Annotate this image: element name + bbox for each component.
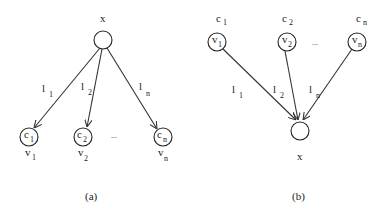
diagram-canvas: x l 1 l 2 l n c 1 v 1 c 2 v 2 ... c n v … [0, 0, 387, 213]
child-inner-sub-a-2: 2 [83, 135, 87, 144]
child-below-sub-a-1: 1 [32, 153, 36, 162]
child-below-sub-a-2: 2 [84, 154, 88, 163]
child-inner-sub-a-1: 1 [30, 135, 34, 144]
edge-label-a-2: l [81, 80, 84, 92]
panel-a: x l 1 l 2 l n c 1 v 1 c 2 v 2 ... c n v … [20, 12, 172, 203]
child-above-b-2: c [282, 12, 287, 24]
child-above-b-n: c [356, 12, 361, 24]
edge-label-b-1: l [232, 83, 235, 95]
child-above-sub-b-1: 1 [223, 18, 227, 27]
child-inner-a-n: c [157, 128, 162, 140]
edge-b-2 [285, 51, 298, 120]
edge-sub-a-1: 1 [49, 90, 53, 99]
edge-label-a-n: l [139, 80, 142, 92]
caption-a: (a) [85, 190, 98, 203]
child-inner-sub-b-n: n [358, 40, 362, 49]
root-node-b [291, 122, 309, 140]
edge-sub-a-n: n [146, 89, 150, 98]
child-inner-sub-a-n: n [163, 135, 167, 144]
child-inner-sub-b-2: 2 [288, 40, 292, 49]
child-below-a-1: v [25, 146, 31, 158]
edge-sub-b-2: 2 [280, 91, 284, 100]
edge-label-a-1: l [42, 82, 45, 94]
root-node-a [94, 31, 112, 49]
child-above-b-1: c [216, 12, 221, 24]
child-below-sub-a-n: n [164, 154, 168, 163]
child-inner-sub-b-1: 1 [218, 40, 222, 49]
child-above-sub-b-2: 2 [289, 18, 293, 27]
edge-sub-b-n: n [316, 91, 320, 100]
child-node-a-1 [20, 128, 38, 146]
edge-label-b-n: l [309, 83, 312, 95]
root-label-b: x [297, 150, 303, 162]
child-inner-a-2: c [77, 128, 82, 140]
edge-sub-a-2: 2 [88, 88, 92, 97]
ellipsis-a: ... [111, 131, 117, 140]
edge-label-b-2: l [273, 83, 276, 95]
ellipsis-b: ... [312, 38, 318, 47]
edge-sub-b-1: 1 [239, 91, 243, 100]
root-label-a: x [100, 12, 106, 24]
child-above-sub-b-n: n [363, 18, 367, 27]
child-inner-a-1: c [24, 128, 29, 140]
panel-b: c 1 c 2 c n v 1 v 2 ... v n l 1 l 2 l n … [208, 12, 367, 203]
caption-b: (b) [292, 190, 305, 203]
